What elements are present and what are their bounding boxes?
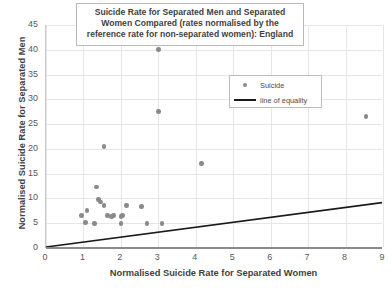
- x-tick-label: 8: [332, 252, 358, 262]
- data-point: [120, 213, 125, 218]
- data-point: [92, 221, 97, 226]
- plot-area: [45, 25, 382, 248]
- line-marker-icon: [230, 99, 260, 101]
- x-tick-label: 3: [144, 252, 170, 262]
- x-tick-label: 7: [294, 252, 320, 262]
- data-point: [199, 161, 204, 166]
- legend-item-suicide: Suicide: [230, 78, 321, 92]
- chart-title: Suicide Rate for Separated Men and Separ…: [76, 3, 304, 46]
- data-point: [160, 221, 165, 226]
- x-tick-label: 1: [69, 252, 95, 262]
- data-point: [139, 204, 144, 209]
- data-point: [83, 220, 88, 225]
- y-axis-title: Normalised Suicide Rate for Separated Me…: [17, 15, 27, 251]
- line-of-equality: [46, 25, 382, 247]
- data-point: [102, 203, 107, 208]
- legend-label: line of equality: [260, 96, 307, 105]
- data-point: [124, 203, 129, 208]
- data-point: [119, 221, 124, 226]
- x-tick-label: 0: [32, 252, 58, 262]
- x-axis-title: Normalised Suicide Rate for Separated Wo…: [45, 268, 382, 278]
- chart-legend: Suicide line of equality: [229, 75, 322, 108]
- data-point: [156, 47, 161, 52]
- legend-label: Suicide: [260, 81, 284, 90]
- x-tick-label: 6: [257, 252, 283, 262]
- x-tick-label: 2: [107, 252, 133, 262]
- x-tick-label: 4: [182, 252, 208, 262]
- data-point: [79, 213, 84, 218]
- data-point: [94, 185, 99, 190]
- scatter-chart: Suicide Rate for Separated Men and Separ…: [0, 0, 392, 290]
- x-tick-label: 9: [369, 252, 392, 262]
- legend-item-line-of-equality: line of equality: [230, 93, 321, 107]
- data-point: [102, 144, 107, 149]
- data-point: [156, 109, 161, 114]
- data-point: [111, 213, 116, 218]
- x-tick-label: 5: [219, 252, 245, 262]
- dot-marker-icon: [230, 83, 260, 87]
